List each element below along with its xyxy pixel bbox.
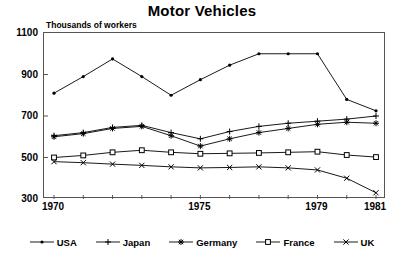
plot-svg [44,33,386,199]
cross-icon [334,237,358,247]
legend-item-uk[interactable]: UK [334,237,375,248]
legend-label: Japan [123,237,150,248]
legend-item-japan[interactable]: Japan [96,237,150,248]
x-tick-label: 1975 [188,201,210,212]
legend-label: UK [361,237,375,248]
series-japan [51,113,379,142]
open-square-icon [256,237,280,247]
series-uk [51,159,378,195]
x-tick-label: 1981 [364,201,386,212]
filled-circle-icon [30,237,54,247]
x-axis-tick-labels: 1970197519791981 [0,201,404,217]
series-france [52,148,379,160]
legend-label: France [283,237,314,248]
asterisk-icon [169,237,193,247]
x-tick-label: 1979 [305,201,327,212]
series-germany [51,119,379,149]
chart-container: Motor Vehicles Thousands of workers 3005… [0,0,404,261]
plus-icon [96,237,120,247]
legend-label: Germany [196,237,237,248]
plot-area [43,32,385,198]
y-tick-label: 500 [4,151,38,162]
legend-item-germany[interactable]: Germany [169,237,237,248]
y-tick-label: 900 [4,68,38,79]
y-axis-unit-label: Thousands of workers [46,20,137,30]
y-tick-label: 1100 [4,27,38,38]
series-usa [52,52,377,112]
y-axis-tick-labels: 3005007009001100 [0,32,38,198]
chart-title: Motor Vehicles [0,2,404,19]
x-tick-label: 1970 [42,201,64,212]
y-tick-label: 700 [4,110,38,121]
chart-legend: USAJapanGermanyFranceUK [0,232,404,252]
legend-item-france[interactable]: France [256,237,314,248]
legend-item-usa[interactable]: USA [30,237,77,248]
legend-label: USA [57,237,77,248]
